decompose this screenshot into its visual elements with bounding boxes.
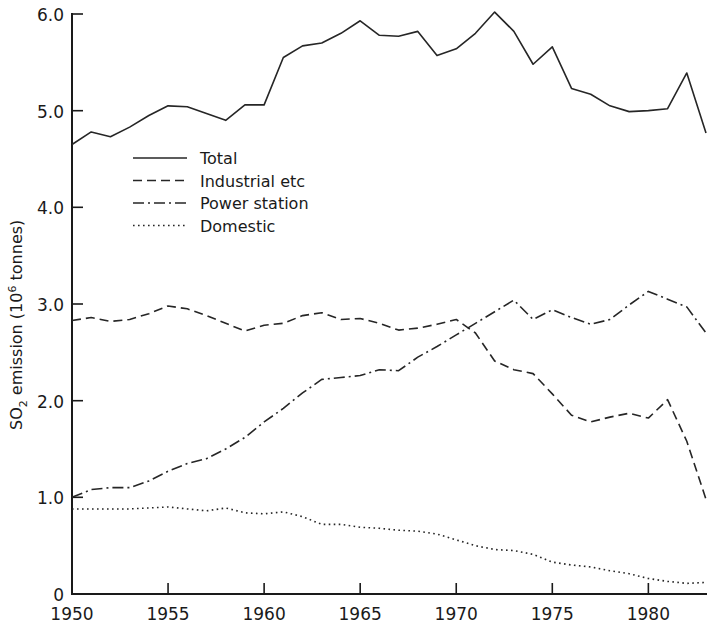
legend-label-power-station: Power station xyxy=(200,194,309,213)
y-tick-label-1: 1.0 xyxy=(37,488,64,508)
y-axis-title-prefix: SO xyxy=(7,407,26,430)
y-tick-label-6: 6.0 xyxy=(37,5,64,25)
x-tick-label-1980: 1980 xyxy=(627,604,670,624)
legend-label-total: Total xyxy=(199,149,237,168)
y-axis-tick-labels: 6.0 5.0 4.0 3.0 2.0 1.0 0 xyxy=(37,5,64,605)
y-axis-title-superscript: 6 xyxy=(6,286,19,293)
series-line-industrial-etc xyxy=(72,306,706,499)
y-tick-label-3: 3.0 xyxy=(37,295,64,315)
x-axis-ticks xyxy=(72,583,648,594)
series-lines xyxy=(72,12,706,583)
y-axis-title: SO2 emission (106 tonnes) xyxy=(6,220,30,430)
y-axis-ticks xyxy=(72,14,83,497)
so2-emission-line-chart: SO2 emission (106 tonnes) 6.0 5.0 4.0 3.… xyxy=(0,0,709,633)
series-line-domestic xyxy=(72,507,706,583)
x-axis-tick-labels: 1950195519601965197019751980 xyxy=(50,604,670,624)
x-tick-label-1955: 1955 xyxy=(146,604,189,624)
series-line-total xyxy=(72,12,706,144)
x-tick-label-1960: 1960 xyxy=(242,604,285,624)
chart-legend: TotalIndustrial etcPower stationDomestic xyxy=(133,149,309,236)
x-tick-label-1975: 1975 xyxy=(531,604,574,624)
legend-label-domestic: Domestic xyxy=(200,217,275,236)
series-line-power-station xyxy=(72,291,706,497)
legend-label-industrial-etc: Industrial etc xyxy=(200,172,305,191)
x-tick-label-1965: 1965 xyxy=(339,604,382,624)
y-tick-label-0: 0 xyxy=(53,585,64,605)
chart-figure: SO2 emission (106 tonnes) 6.0 5.0 4.0 3.… xyxy=(0,0,709,633)
y-tick-label-4: 4.0 xyxy=(37,198,64,218)
x-tick-label-1970: 1970 xyxy=(435,604,478,624)
svg-text:SO2 emission (106 tonnes): SO2 emission (106 tonnes) xyxy=(6,220,30,430)
x-tick-label-1950: 1950 xyxy=(50,604,93,624)
y-tick-label-5: 5.0 xyxy=(37,102,64,122)
y-axis-title-middle: emission (10 xyxy=(7,293,26,401)
y-axis-title-suffix: tonnes) xyxy=(7,220,26,286)
y-axis-title-subscript: 2 xyxy=(17,400,30,407)
y-tick-label-2: 2.0 xyxy=(37,392,64,412)
